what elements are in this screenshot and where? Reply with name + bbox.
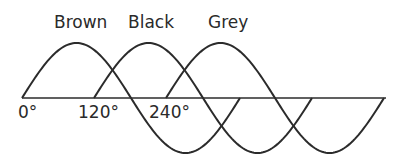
grey-phase-label: Grey [208,12,248,32]
tick-label-120-deg: 120° [78,102,119,122]
tick-label-240-deg: 240° [149,102,190,122]
black-phase-label: Black [128,12,174,32]
brown-phase-label: Brown [54,12,107,32]
three-phase-waveform-diagram: Brown Black Grey 0° 120° 240° [0,0,407,165]
tick-label-0-deg: 0° [18,102,37,122]
